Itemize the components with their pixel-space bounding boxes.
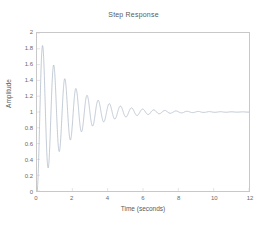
x-axis-label: Time (seconds) [36, 205, 250, 212]
x-tick-label: 12 [239, 195, 261, 201]
y-axis-label: Amplitude [5, 64, 12, 124]
x-tick-label: 10 [203, 195, 225, 201]
step-response-curve [37, 33, 249, 191]
chart-title: Step Response [0, 11, 267, 18]
y-tick-label: 0.6 [7, 141, 33, 147]
y-tick-label: 1.8 [7, 45, 33, 51]
x-tick-label: 2 [61, 195, 83, 201]
plot-area [36, 32, 250, 192]
y-tick-label: 0.2 [7, 173, 33, 179]
response-line [37, 46, 249, 191]
x-tick-label: 6 [132, 195, 154, 201]
y-tick-label: 2 [7, 29, 33, 35]
y-tick-label: 0.8 [7, 125, 33, 131]
y-tick-label: 0.4 [7, 157, 33, 163]
x-tick-label: 4 [96, 195, 118, 201]
step-response-figure: Step Response 00.20.40.60.811.21.41.61.8… [0, 0, 267, 226]
x-tick-label: 8 [168, 195, 190, 201]
x-tick-label: 0 [25, 195, 47, 201]
